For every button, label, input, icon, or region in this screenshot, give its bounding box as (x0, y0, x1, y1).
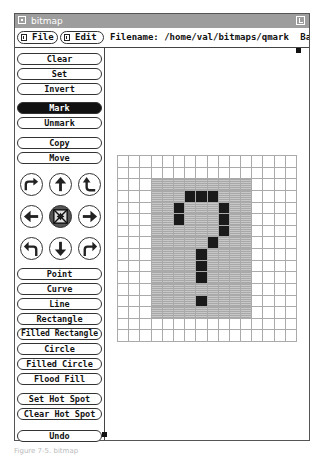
bitmap-cell[interactable] (219, 203, 230, 215)
bitmap-cell[interactable] (185, 330, 196, 342)
bitmap-cell[interactable] (241, 249, 252, 261)
bitmap-cell[interactable] (140, 168, 151, 180)
bitmap-cell[interactable] (241, 284, 252, 296)
bitmap-cell[interactable] (208, 249, 219, 261)
bitmap-cell[interactable] (252, 330, 263, 342)
shift-left-button[interactable] (20, 205, 43, 228)
bitmap-cell[interactable] (275, 191, 286, 203)
bitmap-cell[interactable] (275, 156, 286, 168)
bitmap-cell[interactable] (163, 319, 174, 331)
bitmap-cell[interactable] (263, 330, 274, 342)
bitmap-cell[interactable] (140, 272, 151, 284)
bitmap-cell[interactable] (241, 179, 252, 191)
file-menu-button[interactable]: File (17, 31, 58, 44)
bitmap-cell[interactable] (163, 237, 174, 249)
bitmap-cell[interactable] (174, 237, 185, 249)
bitmap-cell[interactable] (152, 226, 163, 238)
bitmap-cell[interactable] (263, 203, 274, 215)
bitmap-cell[interactable] (241, 156, 252, 168)
bitmap-cell[interactable] (286, 214, 297, 226)
set-hot-spot-button[interactable]: Set Hot Spot (17, 393, 102, 405)
copy-button[interactable]: Copy (17, 137, 102, 149)
bitmap-cell[interactable] (286, 179, 297, 191)
bitmap-cell[interactable] (208, 307, 219, 319)
bitmap-cell[interactable] (163, 272, 174, 284)
filename-value[interactable]: /home/val/bitmaps/qmark (164, 32, 289, 42)
bitmap-cell[interactable] (163, 226, 174, 238)
bitmap-cell[interactable] (163, 296, 174, 308)
bitmap-cell[interactable] (241, 261, 252, 273)
flood-fill-button[interactable]: Flood Fill (17, 373, 102, 385)
bitmap-cell[interactable] (185, 191, 196, 203)
bitmap-cell[interactable] (129, 319, 140, 331)
bitmap-cell[interactable] (219, 307, 230, 319)
bitmap-cell[interactable] (275, 179, 286, 191)
bitmap-cell[interactable] (252, 307, 263, 319)
bitmap-cell[interactable] (152, 296, 163, 308)
bitmap-cell[interactable] (118, 156, 129, 168)
bitmap-cell[interactable] (275, 296, 286, 308)
flip-horizontal-button[interactable] (20, 173, 43, 196)
bitmap-cell[interactable] (230, 261, 241, 273)
bitmap-cell[interactable] (118, 296, 129, 308)
bitmap-cell[interactable] (241, 203, 252, 215)
bitmap-cell[interactable] (140, 179, 151, 191)
title-bar[interactable]: bitmap (15, 14, 309, 28)
bitmap-cell[interactable] (252, 156, 263, 168)
bitmap-cell[interactable] (286, 307, 297, 319)
bitmap-cell[interactable] (230, 284, 241, 296)
bitmap-cell[interactable] (252, 191, 263, 203)
bitmap-cell[interactable] (286, 168, 297, 180)
bitmap-cell[interactable] (219, 179, 230, 191)
bitmap-cell[interactable] (196, 330, 207, 342)
undo-button[interactable]: Undo (17, 430, 102, 442)
bitmap-cell[interactable] (208, 330, 219, 342)
bitmap-cell[interactable] (219, 272, 230, 284)
filled-circle-button[interactable]: Filled Circle (17, 358, 102, 370)
bitmap-cell[interactable] (129, 296, 140, 308)
bitmap-cell[interactable] (163, 203, 174, 215)
bitmap-cell[interactable] (185, 237, 196, 249)
bitmap-cell[interactable] (118, 203, 129, 215)
bitmap-cell[interactable] (196, 284, 207, 296)
bitmap-cell[interactable] (252, 226, 263, 238)
bitmap-cell[interactable] (286, 261, 297, 273)
bitmap-cell[interactable] (185, 319, 196, 331)
bitmap-cell[interactable] (286, 249, 297, 261)
mark-button[interactable]: Mark (17, 102, 102, 114)
bitmap-cell[interactable] (118, 330, 129, 342)
unmark-button[interactable]: Unmark (17, 117, 102, 129)
bitmap-cell[interactable] (208, 272, 219, 284)
clear-hot-spot-button[interactable]: Clear Hot Spot (17, 408, 102, 420)
bitmap-cell[interactable] (185, 307, 196, 319)
bitmap-cell[interactable] (140, 237, 151, 249)
bitmap-cell[interactable] (252, 284, 263, 296)
bitmap-cell[interactable] (252, 261, 263, 273)
bitmap-cell[interactable] (174, 226, 185, 238)
bitmap-cell[interactable] (140, 203, 151, 215)
bitmap-cell[interactable] (252, 179, 263, 191)
bitmap-cell[interactable] (286, 156, 297, 168)
bitmap-cell[interactable] (129, 168, 140, 180)
bitmap-cell[interactable] (129, 179, 140, 191)
bitmap-cell[interactable] (174, 272, 185, 284)
bitmap-cell[interactable] (174, 330, 185, 342)
rotate-left-button[interactable] (20, 237, 43, 260)
shift-right-button[interactable] (78, 205, 101, 228)
bitmap-cell[interactable] (163, 284, 174, 296)
shift-down-button[interactable] (49, 237, 72, 260)
rotate-right-button[interactable] (78, 237, 101, 260)
bitmap-cell[interactable] (118, 214, 129, 226)
bitmap-cell[interactable] (208, 237, 219, 249)
bitmap-cell[interactable] (129, 272, 140, 284)
bitmap-cell[interactable] (152, 319, 163, 331)
bitmap-cell[interactable] (196, 203, 207, 215)
bitmap-cell[interactable] (286, 237, 297, 249)
bitmap-cell[interactable] (185, 272, 196, 284)
bitmap-cell[interactable] (152, 249, 163, 261)
bitmap-cell[interactable] (241, 237, 252, 249)
point-button[interactable]: Point (17, 268, 102, 280)
bitmap-cell[interactable] (263, 168, 274, 180)
bitmap-cell[interactable] (241, 330, 252, 342)
bitmap-cell[interactable] (219, 261, 230, 273)
